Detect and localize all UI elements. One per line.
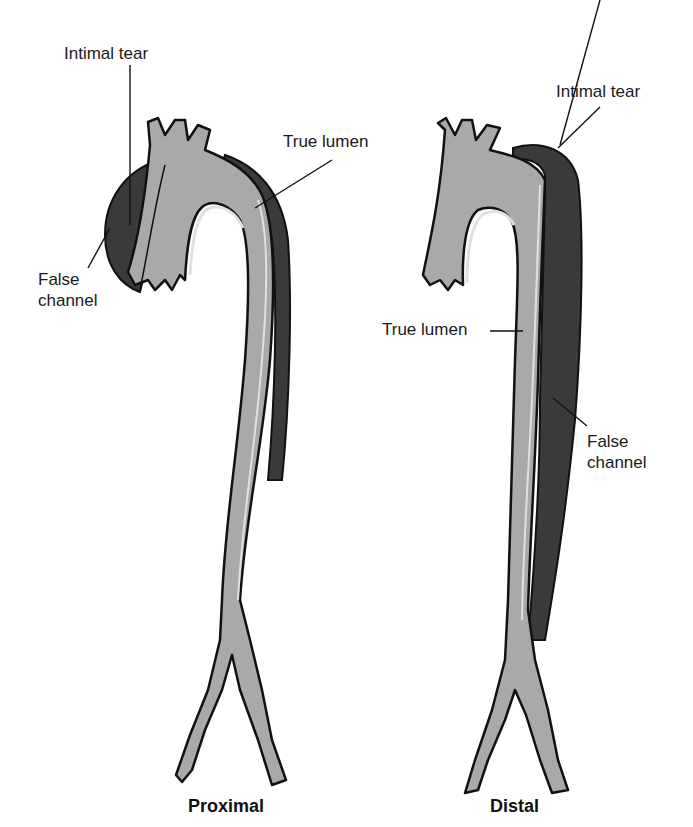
aortic-dissection-diagram xyxy=(0,0,693,827)
proximal-false-channel-label-2: channel xyxy=(38,291,98,311)
proximal-true-lumen-label: True lumen xyxy=(283,132,368,152)
distal-true-lumen-label: True lumen xyxy=(382,320,467,340)
distal-false-channel-label-2: channel xyxy=(587,453,647,473)
distal-aorta xyxy=(423,118,582,793)
proximal-aorta xyxy=(105,118,290,785)
distal-false-channel-label-1: False xyxy=(587,432,629,452)
proximal-caption: Proximal xyxy=(188,796,264,817)
proximal-intimal-tear-label: Intimal tear xyxy=(64,44,148,64)
distal-caption: Distal xyxy=(490,796,539,817)
proximal-false-channel-label-1: False xyxy=(38,270,80,290)
distal-intimal-tear-label: Intimal tear xyxy=(556,82,640,102)
